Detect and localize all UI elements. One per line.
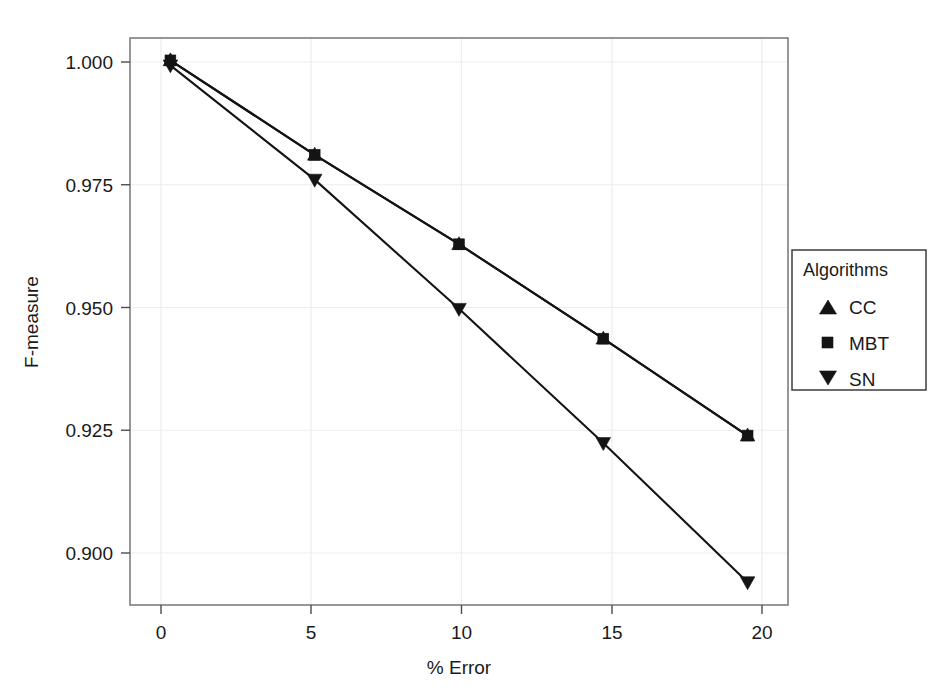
xtick-label-5: 5 <box>306 622 317 643</box>
plot-panel <box>130 38 788 605</box>
legend-item-label-cc: CC <box>849 297 876 318</box>
x-axis-title: % Error <box>427 657 492 678</box>
datapoint-mbt-x5 <box>309 149 320 160</box>
ytick-label-0.900: 0.900 <box>65 543 113 564</box>
legend: Algorithms CC MBT SN <box>792 250 926 390</box>
xtick-label-15: 15 <box>601 622 622 643</box>
datapoint-mbt-x20 <box>742 430 753 441</box>
xtick-label-0: 0 <box>156 622 167 643</box>
chart-figure: 1.000 0.975 0.950 0.925 0.900 0 5 10 15 … <box>0 0 950 700</box>
y-axis-title: F-measure <box>21 276 42 368</box>
ytick-label-0.975: 0.975 <box>65 175 113 196</box>
legend-item-label-mbt: MBT <box>849 333 890 354</box>
xtick-label-20: 20 <box>751 622 772 643</box>
xtick-label-10: 10 <box>451 622 472 643</box>
ytick-label-1.000: 1.000 <box>65 52 113 73</box>
datapoint-mbt-x15 <box>598 333 609 344</box>
panel-background <box>130 38 788 605</box>
legend-item-label-sn: SN <box>849 369 875 390</box>
datapoint-mbt-x10 <box>454 239 465 250</box>
square-icon <box>822 337 833 348</box>
legend-title: Algorithms <box>803 260 888 280</box>
ytick-label-0.925: 0.925 <box>65 420 113 441</box>
ytick-label-0.950: 0.950 <box>65 298 113 319</box>
